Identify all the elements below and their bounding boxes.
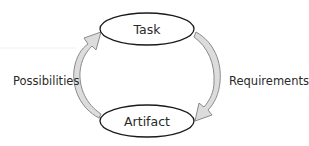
task-artifact-cycle-diagram: Task Artifact Possibilities Requirements [0, 0, 309, 146]
task-node: Task [100, 13, 194, 45]
artifact-node: Artifact [100, 105, 194, 137]
possibilities-label: Possibilities [13, 74, 79, 88]
requirements-label: Requirements [229, 74, 309, 88]
requirements-arrow [194, 32, 220, 121]
task-label: Task [133, 22, 162, 37]
artifact-label: Artifact [124, 114, 170, 129]
